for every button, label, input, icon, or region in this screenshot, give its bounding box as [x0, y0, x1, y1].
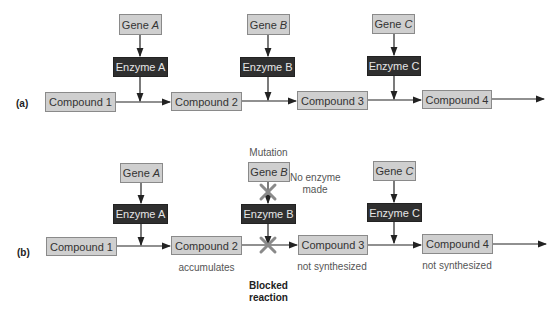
gene-letter: B [280, 166, 287, 178]
panel-b-label: (b) [17, 247, 30, 258]
compound-2-box: Compound 2 [171, 92, 242, 111]
gene-prefix: Gene [250, 19, 277, 31]
compound-1-box: Compound 1 [46, 237, 117, 256]
gene-prefix: Gene [375, 18, 402, 30]
gene-prefix: Gene [250, 166, 277, 178]
gene-letter: C [404, 18, 412, 30]
gene-c-box: GeneC [373, 161, 416, 181]
compound-3-box: Compound 3 [298, 235, 368, 255]
blocked-line2: reaction [249, 292, 288, 304]
gene-letter: C [405, 165, 413, 177]
compound-3-box: Compound 3 [297, 91, 368, 110]
panel-a-label: (a) [16, 98, 28, 109]
compound-4-box: Compound 4 [422, 234, 493, 254]
compound-1-box: Compound 1 [45, 92, 116, 112]
gene-a-box: GeneA [120, 163, 163, 183]
blocked-reaction-label: Blocked reaction [249, 280, 288, 304]
blocked-line1: Blocked [249, 280, 288, 292]
gene-b-box: GeneB [247, 14, 290, 35]
mutation-label: Mutation [248, 147, 289, 159]
enzyme-b-box: Enzyme B [241, 204, 296, 224]
gene-letter: B [280, 19, 287, 31]
gene-c-box: GeneC [372, 14, 415, 34]
compound3-not-synthesized-note: not synthesized [292, 261, 372, 273]
gene-letter: A [152, 19, 159, 31]
gene-letter: A [153, 167, 160, 179]
no-enzyme-line1: No enzyme [290, 172, 340, 184]
compound-2-box: Compound 2 [171, 236, 242, 255]
enzyme-a-box: Enzyme A [113, 57, 168, 77]
gene-prefix: Gene [376, 165, 403, 177]
gene-b-mutated-box: GeneB [248, 162, 290, 182]
no-enzyme-note: No enzyme made [290, 172, 340, 196]
compound-4-box: Compound 4 [422, 90, 492, 109]
enzyme-c-box: Enzyme C [367, 56, 421, 76]
compound4-not-synthesized-note: not synthesized [417, 260, 497, 272]
accumulates-note: accumulates [171, 262, 242, 274]
gene-prefix: Gene [122, 19, 149, 31]
enzyme-c-box: Enzyme C [367, 203, 422, 222]
enzyme-a-box: Enzyme A [113, 204, 168, 224]
no-enzyme-line2: made [290, 184, 340, 196]
enzyme-b-box: Enzyme B [240, 57, 295, 77]
gene-a-box: GeneA [119, 14, 162, 35]
gene-prefix: Gene [123, 167, 150, 179]
